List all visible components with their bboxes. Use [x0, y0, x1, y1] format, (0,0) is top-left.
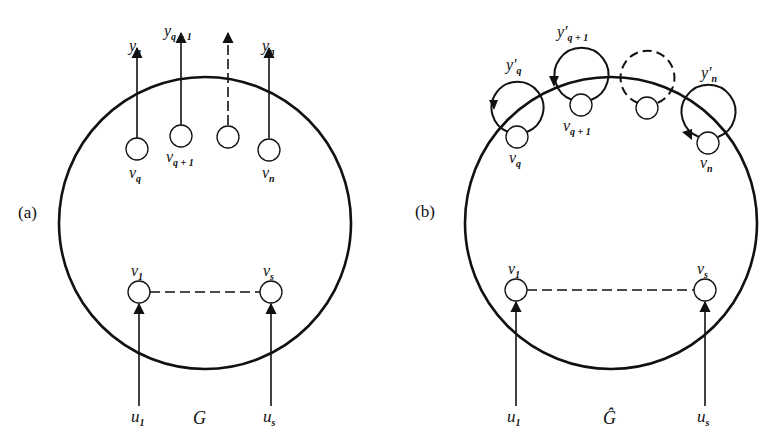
loop-arrowhead-yn — [682, 129, 692, 140]
label-vs: vs — [263, 262, 274, 282]
label-vq1: vq + 1 — [563, 117, 591, 137]
label-yn-prime: y′n — [699, 64, 718, 84]
node-vq — [506, 126, 528, 148]
loop-arrowhead-yq — [489, 100, 498, 110]
label-us: us — [697, 407, 710, 428]
node-vq — [126, 138, 148, 160]
label-yq1-prime: y′q + 1 — [555, 23, 588, 43]
graph-g-boundary — [59, 77, 351, 369]
label-vq1: vq + 1 — [166, 148, 194, 168]
graph-label-g: G — [193, 408, 206, 428]
node-v1 — [128, 281, 150, 303]
node-vs — [694, 279, 716, 301]
label-us: us — [263, 407, 276, 428]
label-yq1: yq + 1 — [162, 22, 192, 42]
node-vs — [260, 281, 282, 303]
node-vq1 — [570, 94, 592, 116]
node-ellipsis — [217, 126, 239, 148]
node-ellipsis — [636, 97, 658, 119]
graph-g-hat-boundary — [465, 77, 757, 369]
panel-b: (b) y′q y′q + 1 y′n vq vq + 1 vn v1 vs u — [415, 23, 757, 428]
label-u1: u1 — [507, 407, 521, 428]
panel-a: (a) yq yq + 1 yn vq vq + 1 vn v1 vs u1 u… — [18, 22, 351, 428]
label-vn: vn — [262, 164, 275, 184]
label-yq-prime: y′q — [504, 56, 522, 76]
label-v1: v1 — [508, 260, 520, 280]
self-loop-yn — [682, 85, 736, 137]
node-vn — [258, 139, 280, 161]
self-loop-yq — [492, 82, 544, 132]
label-v1: v1 — [131, 262, 143, 282]
label-vn: vn — [700, 154, 713, 174]
diagram-canvas: (a) yq yq + 1 yn vq vq + 1 vn v1 vs u1 u… — [0, 0, 770, 442]
label-yn: yn — [260, 37, 275, 57]
label-vq: vq — [509, 149, 521, 169]
label-vs: vs — [697, 260, 708, 280]
label-vq: vq — [129, 164, 141, 184]
panel-b-tag: (b) — [415, 202, 435, 221]
label-u1: u1 — [131, 407, 145, 428]
node-vq1 — [170, 125, 192, 147]
label-yq: yq — [127, 37, 141, 57]
self-loop-yq1 — [555, 48, 609, 100]
node-v1 — [505, 279, 527, 301]
node-vn — [697, 132, 719, 154]
panel-a-tag: (a) — [18, 203, 37, 222]
graph-label-g-hat: Ĝ — [603, 407, 616, 428]
